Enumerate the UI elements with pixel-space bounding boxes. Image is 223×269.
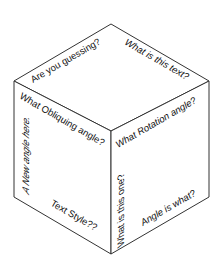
left-label-a-new-angle-here: A New angle here. [21,112,31,197]
right-label-what-is-this-one: What is this one? [116,171,126,250]
cube-diagram: Are you guessing? What is this text? Wha… [0,0,223,269]
